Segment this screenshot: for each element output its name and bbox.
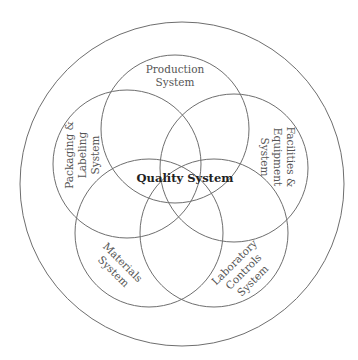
label-line: System [259, 138, 271, 177]
label-packaging-labeling-system: Packaging & Labeling System [63, 121, 101, 189]
label-line: System [89, 136, 101, 175]
label-line: System [156, 76, 195, 88]
quality-system-venn-diagram: Production System Packaging & Labeling S… [0, 0, 358, 360]
label-line: Production [146, 63, 205, 75]
label-laboratory-controls-system: Laboratory Controls System [209, 237, 278, 306]
label-materials-system: Materials System [92, 240, 146, 294]
label-line: Packaging & [63, 121, 75, 189]
label-line: Facilities & [285, 127, 297, 188]
label-quality-system: Quality System [137, 171, 234, 185]
label-line: Equipment [272, 128, 284, 187]
label-line: Labeling [76, 132, 88, 179]
label-facilities-equipment-system: Facilities & Equipment System [259, 127, 297, 188]
label-production-system: Production System [146, 63, 205, 88]
